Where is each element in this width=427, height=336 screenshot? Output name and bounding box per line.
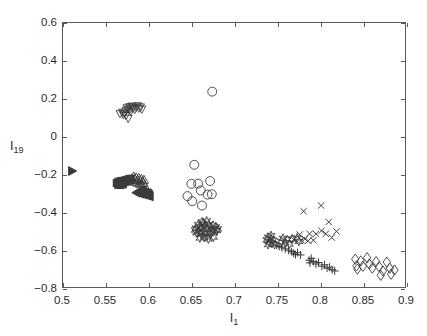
x-tick-0 [63, 283, 64, 287]
series-left-triangle-group [132, 186, 153, 201]
series-up-triangle-group [128, 172, 149, 188]
y-tick-label-4: 0 [51, 130, 57, 142]
x-tick-top-8 [407, 23, 408, 27]
series-right-triangle-group [69, 167, 77, 176]
y-tick-right-5 [401, 99, 405, 100]
y-tick-3 [63, 175, 67, 176]
y-tick-1 [63, 251, 67, 252]
x-tick-label-6: 0.8 [312, 294, 328, 306]
y-tick-label-6: 0.4 [41, 54, 57, 66]
y-tick-5 [63, 99, 67, 100]
y-tick-right-3 [401, 175, 405, 176]
x-tick-label-3: 0.65 [180, 294, 202, 306]
y-tick-label-1: −0.6 [34, 244, 57, 256]
y-tick-right-4 [401, 137, 405, 138]
x-tick-6 [321, 283, 322, 287]
y-tick-label-2: −0.4 [34, 206, 57, 218]
x-tick-top-3 [192, 23, 193, 27]
x-tick-3 [192, 283, 193, 287]
y-tick-2 [63, 213, 67, 214]
marker-circle-3 [183, 192, 192, 201]
x-tick-top-5 [278, 23, 279, 27]
y-tick-right-0 [401, 289, 405, 290]
plot-area [62, 22, 406, 288]
x-tick-label-0: 0.5 [54, 294, 70, 306]
x-tick-top-7 [364, 23, 365, 27]
y-tick-right-6 [401, 61, 405, 62]
data-points-layer [63, 23, 405, 287]
marker-circle-4 [188, 197, 197, 206]
x-tick-8 [407, 283, 408, 287]
series-plus-group [273, 241, 339, 275]
x-tick-label-1: 0.55 [94, 294, 116, 306]
x-tick-top-4 [235, 23, 236, 27]
x-axis-title: I1 [62, 311, 406, 325]
y-tick-label-3: −0.2 [34, 168, 57, 180]
x-tick-top-2 [149, 23, 150, 27]
marker-circle-6 [198, 201, 207, 210]
x-tick-4 [235, 283, 236, 287]
y-axis-title: I19 [10, 139, 24, 153]
marker-x-11 [329, 234, 335, 240]
marker-circle-1 [190, 160, 199, 169]
marker-triangle-right-0 [69, 167, 77, 176]
y-tick-label-5: 0.2 [41, 92, 57, 104]
y-tick-4 [63, 137, 67, 138]
x-tick-label-8: 0.9 [398, 294, 414, 306]
marker-x-10 [326, 219, 332, 225]
y-tick-label-7: 0.6 [41, 16, 57, 28]
y-tick-7 [63, 23, 67, 24]
series-diamond-group [352, 253, 399, 281]
marker-circle-8 [206, 177, 215, 186]
marker-square-14 [120, 181, 127, 188]
y-tick-label-0: −0.8 [34, 282, 57, 294]
marker-x-4 [306, 231, 312, 237]
marker-circle-0 [208, 87, 217, 96]
x-tick-label-5: 0.75 [266, 294, 288, 306]
marker-x-7 [318, 202, 324, 208]
x-tick-top-1 [106, 23, 107, 27]
y-tick-right-7 [401, 23, 405, 24]
y-tick-right-1 [401, 251, 405, 252]
x-axis-title-subscript: 1 [233, 317, 238, 327]
marker-diamond-11 [383, 257, 390, 267]
y-tick-right-2 [401, 213, 405, 214]
x-tick-top-6 [321, 23, 322, 27]
series-circle-group [183, 87, 217, 210]
x-tick-label-2: 0.6 [140, 294, 156, 306]
x-tick-label-4: 0.7 [226, 294, 242, 306]
y-tick-6 [63, 61, 67, 62]
y-axis-title-subscript: 19 [13, 145, 23, 155]
x-tick-5 [278, 283, 279, 287]
series-star-group-mid [191, 216, 222, 243]
marker-x-2 [300, 208, 306, 214]
series-x-group [291, 202, 340, 244]
x-tick-2 [149, 283, 150, 287]
x-tick-label-7: 0.85 [352, 294, 374, 306]
x-tick-1 [106, 283, 107, 287]
marker-x-9 [323, 231, 329, 237]
x-tick-7 [364, 283, 365, 287]
scatter-plot-figure: 0.50.550.60.650.70.750.80.850.9−0.8−0.6−… [0, 0, 427, 336]
y-tick-0 [63, 289, 67, 290]
marker-x-12 [333, 228, 339, 234]
series-down-triangle-group [116, 103, 146, 123]
